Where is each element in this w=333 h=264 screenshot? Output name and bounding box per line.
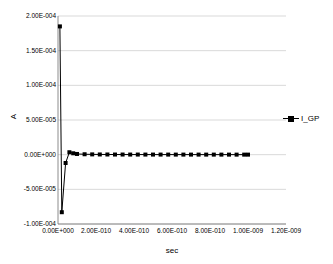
y-tick-label: 1.50E-004	[4, 47, 56, 54]
legend-item-label: I_GP	[301, 114, 319, 123]
series-markers-i-gp	[58, 24, 250, 214]
y-axis-tick-labels: 2.00E-0041.50E-0041.00E-0045.00E-0050.00…	[0, 0, 56, 264]
x-tick-label: 6.00E-010	[157, 227, 187, 235]
x-tick-label: 1.00E-009	[233, 227, 263, 235]
y-tick-label: -1.00E-004	[4, 220, 56, 227]
y-tick-label: 0.00E+000	[4, 151, 56, 158]
y-tick-label: 2.00E-004	[4, 12, 56, 19]
x-tick-label: 1.20E-009	[271, 227, 301, 235]
x-tick-label: 8.00E-010	[195, 227, 225, 235]
y-tick-label: 1.00E-004	[4, 81, 56, 88]
x-tick-label: 0.00E+000	[42, 227, 74, 235]
x-axis-title: sec	[58, 246, 286, 255]
chart-legend: I_GP	[283, 114, 319, 123]
x-tick-label: 2.00E-010	[81, 227, 111, 235]
legend-marker-icon	[283, 114, 299, 123]
gridlines	[58, 16, 286, 224]
series-line-i-gp	[60, 26, 248, 212]
y-tick-label: -5.00E-005	[4, 185, 56, 192]
x-tick-label: 4.00E-010	[119, 227, 149, 235]
y-axis-title: A	[9, 108, 18, 126]
chart-container: 2.00E-0041.50E-0041.00E-0045.00E-0050.00…	[0, 0, 333, 264]
